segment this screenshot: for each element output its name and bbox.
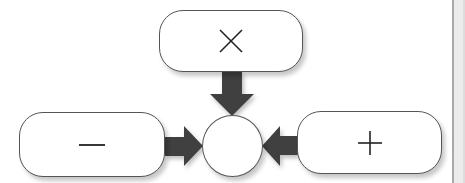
arrow-left-icon (262, 126, 298, 166)
plus-icon (357, 130, 383, 156)
multiply-icon (218, 28, 244, 54)
minus-icon (78, 142, 106, 148)
plus-node (297, 111, 442, 174)
result-node (202, 115, 263, 177)
side-panel-edge (452, 0, 465, 183)
arrow-right-icon (165, 126, 203, 166)
arrow-down-icon (210, 72, 254, 116)
minus-node (19, 112, 165, 177)
multiply-node (159, 10, 303, 72)
operations-diagram (0, 0, 465, 183)
